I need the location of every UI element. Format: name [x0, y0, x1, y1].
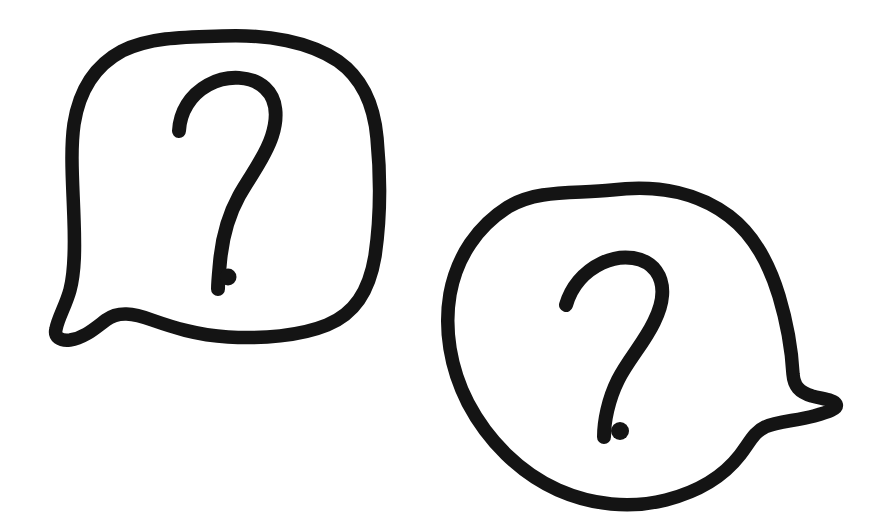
- bubble-right-question-dot-icon: [611, 422, 629, 440]
- illustration-canvas: Two hand-drawn speech bubbles with quest…: [0, 0, 882, 529]
- speech-bubbles-illustration: Two hand-drawn speech bubbles with quest…: [0, 0, 882, 529]
- bubble-left-question-dot-icon: [220, 269, 237, 286]
